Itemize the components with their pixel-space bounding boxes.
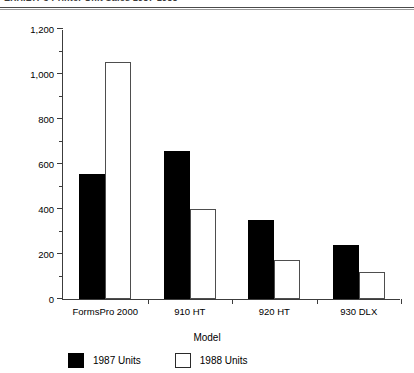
y-axis-tick-major <box>57 73 63 74</box>
x-axis-tick-label: 930 DLX <box>317 306 402 317</box>
bar-1987 <box>164 151 190 300</box>
legend-swatch-1987 <box>68 353 84 368</box>
y-axis-tick-major <box>57 163 63 164</box>
y-axis-tick-label: 800 <box>2 115 54 125</box>
exhibit-caption-text: EXHIBIT 5 Printer Unit Sales 1987-1988 <box>0 0 414 3</box>
x-axis-title: Model <box>0 332 414 343</box>
x-axis-tick <box>401 299 402 304</box>
legend-entry: 1988 Units <box>175 353 248 368</box>
y-axis-tick-major <box>57 208 63 209</box>
y-axis-tick-minor <box>59 186 63 187</box>
y-axis-tick-minor <box>59 276 63 277</box>
x-axis-tick-label: FormsPro 2000 <box>63 306 148 317</box>
header-rule-bottom <box>0 9 414 10</box>
x-axis-tick <box>317 299 318 304</box>
y-axis-tick-minor <box>59 96 63 97</box>
y-axis-tick-major <box>57 28 63 29</box>
legend-label: 1988 Units <box>200 355 248 366</box>
bar-1987 <box>248 220 274 299</box>
y-axis-tick-minor <box>59 231 63 232</box>
y-axis-tick-label: 200 <box>2 250 54 260</box>
chart-plot-area: 02004006008001,0001,200 FormsPro 2000910… <box>62 30 400 300</box>
exhibit-caption-strip: EXHIBIT 5 Printer Unit Sales 1987-1988 <box>0 0 414 3</box>
y-axis-tick-minor <box>59 51 63 52</box>
x-axis-tick-label: 920 HT <box>232 306 317 317</box>
bar-1987 <box>333 245 359 299</box>
y-axis-tick-label: 0 <box>2 295 54 305</box>
y-axis-tick-label: 600 <box>2 160 54 170</box>
bar-1988 <box>274 260 300 299</box>
bar-1987 <box>79 174 105 299</box>
y-axis-tick-label: 1,200 <box>2 25 54 35</box>
bar-1988 <box>190 209 216 299</box>
y-axis-tick-major <box>57 118 63 119</box>
legend-swatch-1988 <box>175 353 191 368</box>
legend-entry: 1987 Units <box>68 353 141 368</box>
y-axis-tick-label: 400 <box>2 205 54 215</box>
x-axis-tick-label: 910 HT <box>148 306 233 317</box>
legend-label: 1987 Units <box>93 355 141 366</box>
x-axis-tick <box>232 299 233 304</box>
y-axis-tick-label: 1,000 <box>2 70 54 80</box>
y-axis-tick-major <box>57 298 63 299</box>
bar-1988 <box>359 272 385 299</box>
chart-legend: 1987 Units1988 Units <box>68 353 248 368</box>
y-axis-tick-major <box>57 253 63 254</box>
y-axis-tick-minor <box>59 141 63 142</box>
header-rule-top <box>0 7 414 8</box>
x-axis-tick <box>148 299 149 304</box>
bar-1988 <box>105 62 131 299</box>
